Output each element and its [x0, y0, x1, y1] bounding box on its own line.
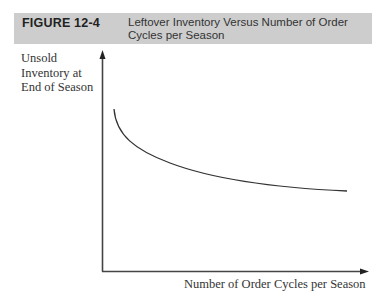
plot-area: [0, 0, 389, 304]
inventory-curve: [114, 109, 347, 191]
x-axis-arrow-icon: [360, 269, 369, 275]
y-axis-arrow-icon: [100, 50, 106, 59]
